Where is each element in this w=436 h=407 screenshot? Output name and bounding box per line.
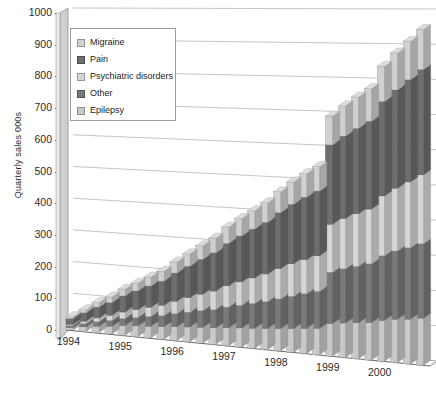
bar-segment-side — [255, 273, 262, 303]
bar-column — [66, 312, 80, 330]
legend-item-label: Pain — [90, 55, 108, 64]
bar-segment-front — [66, 326, 73, 328]
bar-segment-side — [346, 214, 353, 269]
bar-column — [377, 61, 391, 361]
bar-segment-side — [372, 84, 379, 122]
bar-segment-front — [66, 317, 73, 319]
bar-column — [299, 169, 313, 354]
bar-segment-side — [268, 269, 275, 302]
bar-segment-side — [398, 246, 405, 319]
bar-segment-side — [333, 140, 340, 224]
bar-segment-side — [385, 191, 392, 256]
bar-segment-side — [268, 217, 275, 274]
bar-segment-side — [307, 323, 314, 353]
legend-swatch-icon — [77, 56, 85, 64]
bar-column — [131, 278, 145, 336]
bar-segment-side — [333, 319, 340, 357]
bar-segment-side — [255, 298, 262, 328]
bar-column — [196, 241, 210, 343]
chart-root: Quarterly sales 000s 1000900800700600500… — [0, 0, 436, 407]
bar-segment-side — [294, 199, 301, 264]
bar-column — [144, 272, 158, 338]
bar-segment-side — [411, 177, 418, 248]
bar-segment-side — [359, 92, 366, 128]
legend-item[interactable]: Pain — [77, 51, 175, 68]
bar-segment-side — [333, 219, 340, 272]
bar-segment-side — [424, 313, 431, 365]
bar-segment-side — [385, 96, 392, 196]
bar-segment-side — [346, 264, 353, 323]
bar-segment-side — [190, 261, 197, 298]
x-tick-label: 1998 — [264, 356, 287, 368]
bar-segment-side — [320, 251, 327, 291]
bar-segment-side — [242, 231, 249, 282]
bar-segment-side — [320, 323, 327, 355]
legend-item[interactable]: Other — [77, 85, 175, 102]
x-tick-label: 1994 — [57, 335, 80, 347]
legend-item[interactable]: Migraine — [77, 34, 175, 51]
bar-segment-side — [424, 239, 431, 318]
bar-segment-side — [333, 111, 340, 145]
bar-column — [105, 292, 119, 334]
bar-segment-side — [307, 192, 314, 260]
legend-swatch-icon — [77, 39, 85, 47]
bar-column — [351, 92, 365, 359]
bar-column — [79, 305, 93, 332]
bar-segment-side — [346, 131, 353, 218]
bar-segment-side — [372, 259, 379, 323]
bar-segment-front — [325, 116, 332, 145]
bar-segment-side — [229, 238, 236, 286]
bar-segment-side — [411, 36, 418, 79]
x-tick-label: 2000 — [368, 366, 391, 378]
bar-segment-side — [346, 318, 353, 357]
bar-segment-side — [359, 318, 366, 359]
bar-segment-side — [281, 208, 288, 269]
bar-segment-side — [359, 123, 366, 214]
bar-segment-front — [92, 326, 99, 332]
bar-column — [403, 36, 417, 364]
bar-segment-side — [255, 224, 262, 278]
legend-item-label: Epilepsy — [90, 106, 124, 115]
chart-legend: MigrainePainPsychiatric disordersOtherEp… — [70, 28, 176, 121]
legend-item-label: Psychiatric disorders — [90, 72, 173, 81]
legend-swatch-icon — [77, 73, 85, 81]
x-tick-label: 1996 — [160, 345, 183, 357]
bar-segment-side — [372, 116, 379, 209]
bar-segment-side — [398, 183, 405, 251]
bar-segment-side — [398, 314, 405, 362]
bar-segment-side — [294, 259, 301, 297]
x-tick-label: 1997 — [212, 350, 235, 362]
bar-column — [183, 249, 197, 342]
bar-segment-side — [307, 289, 314, 329]
legend-item[interactable]: Epilepsy — [77, 102, 175, 119]
bar-segment-side — [398, 85, 405, 188]
legend-item[interactable]: Psychiatric disorders — [77, 68, 175, 85]
bar-column — [157, 266, 171, 339]
bar-column — [364, 84, 378, 360]
bar-segment-side — [424, 24, 431, 69]
bar-segment-side — [372, 318, 379, 360]
legend-swatch-icon — [77, 107, 85, 115]
bar-segment-side — [385, 61, 392, 101]
bar-segment-side — [281, 294, 288, 329]
bar-column — [287, 177, 301, 352]
bar-column — [261, 198, 275, 350]
bar-segment-side — [372, 204, 379, 264]
bar-segment-front — [79, 327, 86, 331]
bar-column — [390, 48, 404, 363]
bar-segment-side — [411, 243, 418, 319]
x-tick-label: 1995 — [109, 340, 132, 352]
bar-segment-side — [216, 248, 223, 291]
bar-segment-side — [268, 297, 275, 329]
bar-column — [416, 24, 430, 365]
bar-column — [338, 101, 352, 358]
bar-segment-side — [411, 75, 418, 182]
bar-segment-side — [411, 314, 418, 364]
bar-segment-side — [294, 291, 301, 328]
bar-column — [325, 111, 339, 356]
bar-segment-side — [398, 48, 405, 90]
bar-segment-side — [385, 251, 392, 321]
bar-segment-side — [203, 254, 210, 294]
bar-segment-side — [177, 268, 184, 301]
bar-segment-side — [346, 101, 353, 136]
